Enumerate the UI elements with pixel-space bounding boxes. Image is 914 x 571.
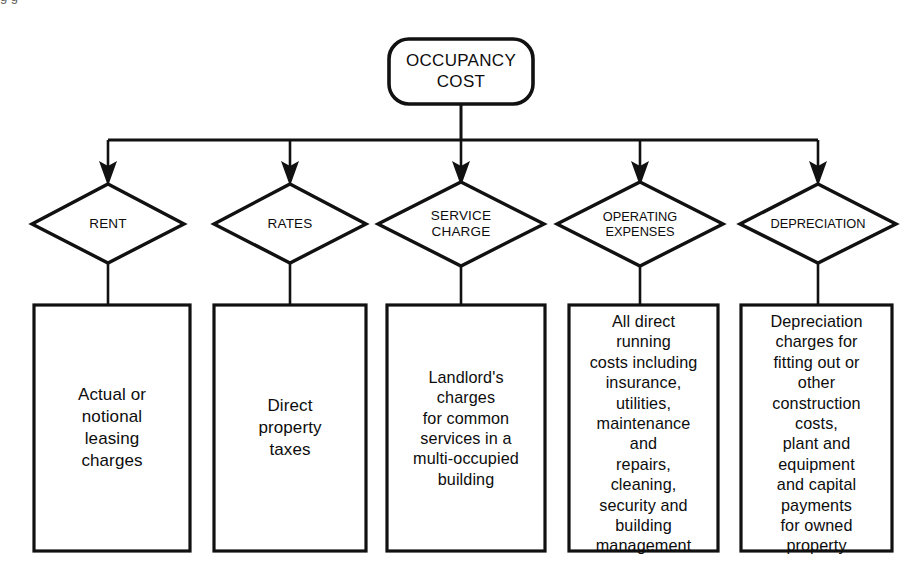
root-node-shape: [389, 39, 533, 104]
diamond-shape-depreciation: [740, 184, 896, 263]
diagram-canvas: [0, 0, 914, 571]
diamond-shape-rent: [32, 184, 184, 263]
detail-box-service-charge: [387, 305, 545, 551]
detail-box-rent: [34, 305, 190, 551]
diamond-shape-rates: [214, 184, 366, 263]
detail-box-depreciation: [741, 305, 892, 551]
detail-box-rates: [214, 305, 366, 551]
diamond-shape-service-charge: [378, 182, 544, 266]
diamond-shape-operating-expenses: [557, 182, 723, 266]
detail-box-operating-expenses: [569, 305, 718, 551]
occupancy-cost-diagram: g g: [0, 0, 914, 571]
